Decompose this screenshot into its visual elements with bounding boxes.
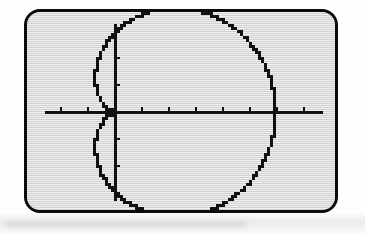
x-axis-tick <box>303 107 305 112</box>
y-axis-tick <box>115 138 120 140</box>
scan-artifact <box>0 212 365 234</box>
x-axis-tick <box>168 107 170 112</box>
page-root <box>0 0 365 234</box>
y-axis-tick <box>115 165 120 167</box>
x-axis-tick <box>141 107 143 112</box>
x-axis <box>45 111 323 114</box>
x-axis-tick <box>276 107 278 112</box>
scan-artifact-smudge <box>6 221 246 228</box>
x-axis-tick <box>195 107 197 112</box>
y-axis-tick <box>115 57 120 59</box>
y-axis-tick <box>115 84 120 86</box>
x-axis-tick <box>222 107 224 112</box>
x-axis-tick <box>87 107 89 112</box>
x-axis-tick <box>249 107 251 112</box>
x-axis-tick <box>60 107 62 112</box>
polar-plot-graph <box>27 12 335 210</box>
calculator-screen <box>24 9 338 213</box>
